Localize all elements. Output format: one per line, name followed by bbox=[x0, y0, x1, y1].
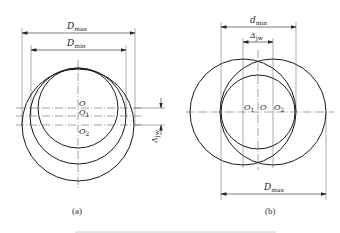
label-dmax-b: Dmax bbox=[263, 182, 284, 193]
figure-a: Dmax Dmin Δjw O O1 O2 (a) bbox=[16, 21, 165, 216]
label-delta-jw-b: Δjw bbox=[249, 31, 264, 42]
label-dmin-b: dmin bbox=[250, 15, 267, 26]
label-o-a: O bbox=[79, 99, 86, 108]
centerlines-a bbox=[16, 60, 142, 188]
label-o-b: O bbox=[260, 103, 267, 112]
label-dmax: Dmax bbox=[66, 21, 87, 32]
label-o2-a: O2 bbox=[79, 127, 90, 137]
caption-b: (b) bbox=[265, 206, 276, 216]
label-o2-b: O2 bbox=[274, 103, 285, 113]
figure-b: dmin Δjw O1 O O2 Dmax (b) bbox=[186, 15, 334, 216]
label-o1-a: O1 bbox=[79, 108, 89, 118]
caption-a: (a) bbox=[72, 206, 82, 216]
diagram-canvas: Dmax Dmin Δjw O O1 O2 (a) bbox=[0, 0, 340, 233]
label-o1-b: O1 bbox=[244, 103, 254, 113]
label-dmin: Dmin bbox=[66, 38, 86, 49]
label-delta-jw-a: Δjw bbox=[150, 129, 161, 144]
